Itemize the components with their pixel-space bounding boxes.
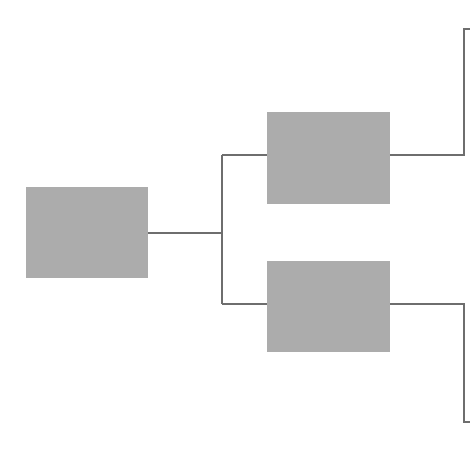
connector-child-top-outgoing (390, 29, 470, 155)
connectors (148, 29, 470, 422)
node-child-top[interactable] (267, 112, 390, 204)
node-child-bottom-box[interactable] (267, 261, 390, 352)
connector-child-bottom-outgoing (390, 304, 470, 422)
node-child-bottom[interactable] (267, 261, 390, 352)
node-child-top-box[interactable] (267, 112, 390, 204)
node-root[interactable] (26, 187, 148, 278)
node-root-box[interactable] (26, 187, 148, 278)
tree-diagram (0, 0, 470, 451)
